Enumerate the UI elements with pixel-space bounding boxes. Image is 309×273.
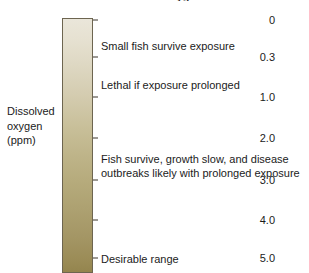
tick-label-5-0: 5.0 [245, 253, 275, 264]
tick-mark-5-0 [93, 258, 98, 259]
axis-label-line-2: oxygen [7, 119, 61, 134]
tick-mark-2-0 [93, 138, 98, 139]
annotation-0: Small fish survive exposure [101, 39, 235, 53]
annotation-3: Desirable range [101, 252, 179, 266]
color-scale [62, 18, 93, 273]
tick-mark-4-0 [93, 220, 98, 221]
tick-mark-0-3 [93, 57, 98, 58]
tick-label-0-3: 0.3 [245, 52, 275, 63]
tick-label-1-0: 1.0 [245, 92, 275, 103]
tick-mark-3-0 [93, 180, 98, 181]
axis-label-dissolved-oxygen: Dissolved oxygen (ppm) [7, 104, 61, 148]
axis-label-line-1: Dissolved [7, 104, 61, 119]
annotation-1: Lethal if exposure prolonged [101, 78, 240, 92]
tick-label-2-0: 2.0 [245, 133, 275, 144]
tick-mark-1-0 [93, 97, 98, 98]
tick-label-0: 0 [245, 15, 275, 26]
gradient-bar [62, 18, 93, 273]
tick-label-4-0: 4.0 [245, 215, 275, 226]
dissolved-oxygen-scale-figure: Dissolved oxygen 00.31.02.03.04.05.0 Dis… [0, 0, 309, 273]
tick-mark-0 [93, 20, 98, 21]
axis-label-line-3: (ppm) [7, 133, 61, 148]
figure-title: Dissolved oxygen [0, 0, 309, 1]
annotation-2: Fish survive, growth slow, and disease o… [101, 152, 300, 180]
